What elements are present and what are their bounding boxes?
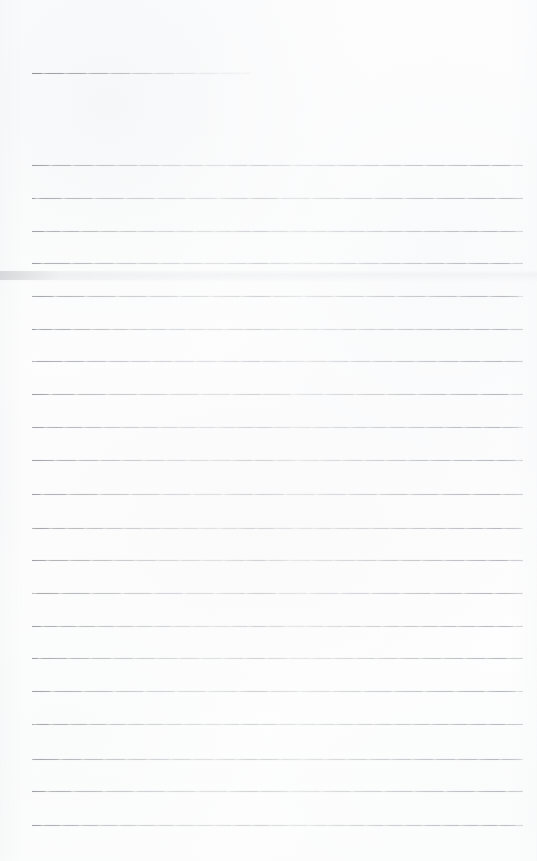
rule-line xyxy=(32,427,523,428)
rule-speckle xyxy=(32,493,523,496)
rule-line xyxy=(32,198,523,199)
rule-halo xyxy=(32,295,523,298)
rule-speckle xyxy=(32,824,523,827)
rule-speckle xyxy=(32,328,523,331)
rule-speckle xyxy=(32,72,250,75)
rule-halo xyxy=(32,426,523,429)
paper-edge-vignette xyxy=(0,0,537,861)
rule-speckle xyxy=(32,723,523,726)
rule-stroke xyxy=(32,394,523,395)
rule-stroke xyxy=(32,658,523,659)
rule-line xyxy=(32,263,523,264)
rule-halo xyxy=(32,690,523,693)
rule-halo xyxy=(32,360,523,363)
rule-speckle xyxy=(32,559,523,562)
rule-line xyxy=(32,165,523,166)
rule-line xyxy=(32,593,523,594)
rule-stroke xyxy=(32,73,250,74)
rule-line xyxy=(32,626,523,627)
rule-stroke xyxy=(32,361,523,362)
rule-line xyxy=(32,329,523,330)
rule-line xyxy=(32,494,523,495)
rule-halo xyxy=(32,723,523,726)
rule-stroke xyxy=(32,198,523,199)
rule-speckle xyxy=(32,625,523,628)
rule-stroke xyxy=(32,691,523,692)
rule-speckle xyxy=(32,230,523,233)
rule-line xyxy=(32,528,523,529)
rule-line xyxy=(32,296,523,297)
rule-speckle xyxy=(32,295,523,298)
rule-stroke xyxy=(32,460,523,461)
rule-stroke xyxy=(32,329,523,330)
rule-halo xyxy=(32,758,523,761)
rule-speckle xyxy=(32,262,523,265)
rule-speckle xyxy=(32,393,523,396)
rule-line xyxy=(32,691,523,692)
rule-stroke xyxy=(32,494,523,495)
rule-halo xyxy=(32,459,523,462)
rule-stroke xyxy=(32,296,523,297)
rule-halo xyxy=(32,493,523,496)
rule-line xyxy=(32,825,523,826)
rule-stroke xyxy=(32,263,523,264)
rule-halo xyxy=(32,393,523,396)
rule-stroke xyxy=(32,165,523,166)
rule-halo xyxy=(32,262,523,265)
rule-stroke xyxy=(32,528,523,529)
rule-stroke xyxy=(32,724,523,725)
rule-halo xyxy=(32,72,250,75)
rule-halo xyxy=(32,559,523,562)
rule-stroke xyxy=(32,560,523,561)
rule-stroke xyxy=(32,593,523,594)
rule-halo xyxy=(32,164,523,167)
paper-background xyxy=(0,0,537,861)
rule-halo xyxy=(32,824,523,827)
rule-speckle xyxy=(32,758,523,761)
rule-speckle xyxy=(32,459,523,462)
left-edge-scan-mark xyxy=(0,271,537,280)
scanned-page xyxy=(0,0,537,861)
rule-speckle xyxy=(32,164,523,167)
rule-speckle xyxy=(32,360,523,363)
rule-halo xyxy=(32,527,523,530)
rule-line xyxy=(32,658,523,659)
rule-line xyxy=(32,361,523,362)
rule-halo xyxy=(32,328,523,331)
rule-line xyxy=(32,759,523,760)
rule-speckle xyxy=(32,690,523,693)
rule-halo xyxy=(32,790,523,793)
rule-stroke xyxy=(32,427,523,428)
rule-halo xyxy=(32,592,523,595)
rule-stroke xyxy=(32,759,523,760)
rule-stroke xyxy=(32,791,523,792)
rule-halo xyxy=(32,657,523,660)
rule-line xyxy=(32,460,523,461)
rule-speckle xyxy=(32,426,523,429)
rule-stroke xyxy=(32,626,523,627)
scan-band-artifact xyxy=(0,270,537,282)
rule-line xyxy=(32,791,523,792)
rule-line xyxy=(32,560,523,561)
rule-halo xyxy=(32,625,523,628)
rule-line xyxy=(32,724,523,725)
rule-speckle xyxy=(32,527,523,530)
rule-line xyxy=(32,73,250,74)
rule-stroke xyxy=(32,825,523,826)
rule-line xyxy=(32,394,523,395)
rule-speckle xyxy=(32,790,523,793)
rule-speckle xyxy=(32,657,523,660)
rule-speckle xyxy=(32,197,523,200)
rule-speckle xyxy=(32,592,523,595)
rule-halo xyxy=(32,197,523,200)
rule-line xyxy=(32,231,523,232)
rule-stroke xyxy=(32,231,523,232)
rule-halo xyxy=(32,230,523,233)
